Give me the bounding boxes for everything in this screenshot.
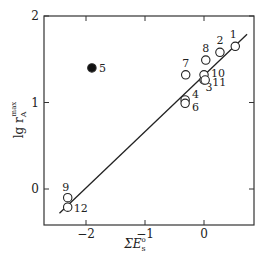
point-label-9: 9 (62, 181, 69, 194)
x-tick-label: −2 (77, 227, 95, 241)
plot-frame (44, 16, 254, 225)
y-axis-label: lg rAmax (10, 102, 28, 139)
data-point-12 (64, 203, 72, 211)
scatter-chart: 012 −2−10 lg rAmax ΣEso 123456789101112 (0, 0, 260, 255)
point-label-2: 2 (216, 34, 223, 47)
data-point-8 (202, 56, 210, 64)
x-axis-label: ΣEso (123, 236, 146, 253)
y-axis-label-main: lg r (12, 117, 26, 138)
y-tick-label: 0 (31, 182, 39, 196)
data-point-7 (182, 71, 190, 79)
point-label-11: 11 (212, 76, 226, 89)
point-label-8: 8 (202, 42, 209, 55)
point-label-5: 5 (99, 62, 106, 75)
svg-text:lg rAmax: lg rAmax (10, 102, 28, 139)
y-tick-label: 1 (31, 96, 39, 110)
x-axis-label-sup: o (142, 236, 146, 244)
x-tick-label: 0 (200, 227, 208, 241)
y-axis-label-sup: max (10, 102, 18, 117)
data-point-6 (181, 99, 189, 107)
point-label-7: 7 (182, 57, 189, 70)
svg-text:ΣEso: ΣEso (123, 236, 146, 253)
data-point-9 (64, 193, 72, 201)
data-point-1 (231, 42, 239, 50)
point-label-1: 1 (230, 28, 237, 41)
regression-line (59, 34, 247, 213)
data-point-5 (88, 64, 96, 72)
x-axis-label-sub: s (141, 244, 145, 253)
y-tick-label: 2 (31, 9, 39, 23)
x-axis-label-main: ΣE (123, 237, 141, 251)
point-label-6: 6 (192, 101, 199, 114)
y-axis-label-sub: A (19, 111, 28, 118)
point-label-4: 4 (192, 88, 199, 101)
data-point-2 (216, 48, 224, 56)
point-label-12: 12 (74, 202, 88, 215)
data-points: 123456789101112 (62, 28, 239, 215)
data-point-11 (201, 76, 209, 84)
x-axis-ticks: −2−10 (77, 16, 208, 241)
